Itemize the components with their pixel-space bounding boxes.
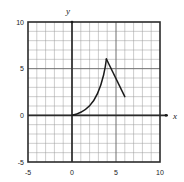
y-tick-label-0: 0 bbox=[20, 112, 24, 119]
x-tick-label-0: 0 bbox=[70, 169, 74, 176]
y-tick-label-5: 5 bbox=[20, 65, 24, 72]
x-tick-label-10: 10 bbox=[156, 169, 164, 176]
x-tick-label-5: 5 bbox=[114, 169, 118, 176]
y-axis-tip bbox=[71, 21, 74, 24]
y-tick-label-10: 10 bbox=[16, 19, 24, 26]
chart-container: 10 5 0 -5 -5 0 5 10 y x bbox=[0, 0, 184, 182]
x-axis-label: x bbox=[172, 111, 177, 121]
y-tick-label-neg5: -5 bbox=[18, 159, 24, 166]
x-tick-label-neg5: -5 bbox=[25, 169, 31, 176]
x-axis-tip bbox=[165, 114, 168, 117]
y-axis-label: y bbox=[65, 6, 70, 16]
coordinate-plane-graph: 10 5 0 -5 -5 0 5 10 y x bbox=[0, 0, 184, 182]
